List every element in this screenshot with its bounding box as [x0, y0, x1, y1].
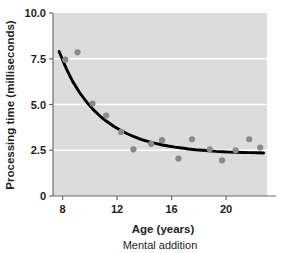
y-tick-label: 7.5	[31, 53, 46, 65]
data-point	[74, 49, 80, 55]
data-point	[257, 144, 263, 150]
x-tick-label: 20	[220, 203, 232, 215]
y-axis-title: Processing time (milliseconds)	[4, 20, 16, 190]
data-point	[118, 129, 124, 135]
data-point	[207, 146, 213, 152]
x-tick-label: 12	[111, 203, 123, 215]
y-tick-label: 10.0	[25, 7, 46, 19]
data-point	[103, 112, 109, 118]
data-point	[148, 141, 154, 147]
x-tick-label: 8	[59, 203, 65, 215]
data-point	[130, 146, 136, 152]
data-point	[159, 137, 165, 143]
data-point	[62, 57, 68, 63]
figure-container: 02.55.07.510.0 8121620 Processing time (…	[0, 0, 285, 253]
processing-time-scatter-chart: 02.55.07.510.0 8121620 Processing time (…	[0, 0, 285, 253]
data-point	[189, 136, 195, 142]
data-point	[175, 155, 181, 161]
x-tick-label: 16	[165, 203, 177, 215]
data-point	[89, 100, 95, 106]
data-point	[219, 157, 225, 163]
data-point	[233, 147, 239, 153]
y-tick-label: 0	[40, 190, 46, 202]
figure-caption: Mental addition	[123, 239, 198, 251]
y-tick-label: 5.0	[31, 99, 46, 111]
x-axis-title: Age (years)	[132, 223, 195, 235]
y-tick-label: 2.5	[31, 144, 46, 156]
data-point	[246, 136, 252, 142]
